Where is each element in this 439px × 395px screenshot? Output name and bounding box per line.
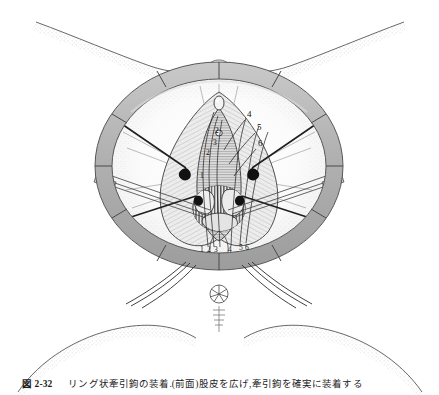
- figure-caption-label: 図 2-32: [0, 378, 68, 390]
- label-bottom-4: 4: [228, 245, 232, 254]
- label-bottom-6: 6: [245, 243, 249, 252]
- clitoris-highlight: [216, 99, 219, 103]
- label-bottom-1: 1: [200, 245, 204, 254]
- label-center-3: 3: [213, 138, 217, 147]
- figure-root: 4 5 6 2 3 2 1 1 2 3 4 5 6 図 2-32リング状牽引鉤の…: [0, 0, 439, 395]
- label-center-2: 2: [215, 126, 219, 135]
- label-6: 6: [258, 138, 263, 148]
- label-4: 4: [247, 109, 252, 119]
- figure-caption-text: リング状牽引鉤の装着.(前面)股皮を広げ,牽引鉤を確実に装着する: [68, 378, 362, 390]
- surgical-illustration: 4 5 6 2 3 2 1 1 2 3 4 5 6: [0, 0, 439, 395]
- label-left-2: 2: [206, 148, 210, 157]
- label-bottom-2: 2: [207, 245, 211, 254]
- label-left-1: 1: [200, 171, 204, 180]
- figure-caption: 図 2-32リング状牽引鉤の装着.(前面)股皮を広げ,牽引鉤を確実に装着する: [0, 378, 439, 395]
- label-bottom-3: 3: [214, 245, 218, 254]
- clitoris: [214, 96, 224, 110]
- label-bottom-5: 5: [239, 243, 243, 252]
- label-5: 5: [257, 122, 262, 132]
